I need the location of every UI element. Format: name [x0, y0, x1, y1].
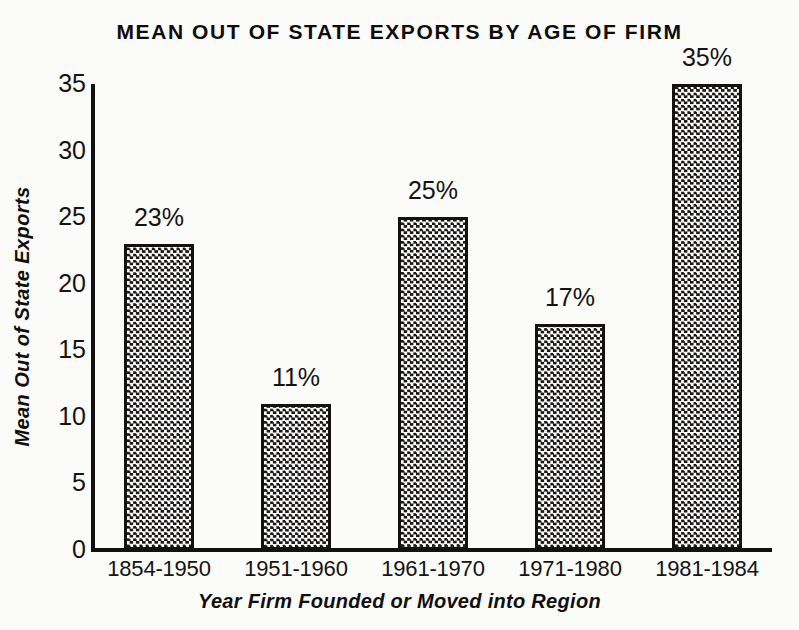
y-tick-label: 35: [12, 71, 86, 96]
bar: [261, 404, 331, 550]
x-tick-label: 1961-1970: [363, 557, 503, 581]
x-tick-label: 1981-1984: [637, 557, 777, 581]
bar-value-label: 25%: [366, 178, 500, 203]
chart-page: MEAN OUT OF STATE EXPORTS BY AGE OF FIRM…: [0, 0, 799, 630]
y-axis-line: [91, 84, 95, 552]
x-tick-label: 1854-1950: [89, 557, 229, 581]
y-axis-title: Mean Out of State Exports: [11, 167, 34, 467]
bar: [672, 84, 742, 550]
bar-group: 23%: [124, 184, 194, 550]
x-tick-label: 1971-1980: [500, 557, 640, 581]
bar-group: 35%: [672, 24, 742, 550]
plot-area: 05101520253035 Mean Out of State Exports…: [0, 0, 799, 630]
bar-group: 25%: [398, 157, 468, 550]
bar: [398, 217, 468, 550]
bar-value-label: 23%: [92, 205, 226, 230]
bar-group: 11%: [261, 344, 331, 550]
bar-value-label: 11%: [229, 365, 363, 390]
bar: [124, 244, 194, 550]
y-tick-label: 0: [12, 537, 86, 562]
bar-group: 17%: [535, 264, 605, 550]
bar-value-label: 35%: [640, 45, 774, 70]
y-tick-label: 30: [12, 138, 86, 163]
x-tick-label: 1951-1960: [226, 557, 366, 581]
y-tick-label: 5: [12, 470, 86, 495]
x-axis-title: Year Firm Founded or Moved into Region: [0, 590, 799, 613]
bar-value-label: 17%: [503, 285, 637, 310]
bar: [535, 324, 605, 550]
